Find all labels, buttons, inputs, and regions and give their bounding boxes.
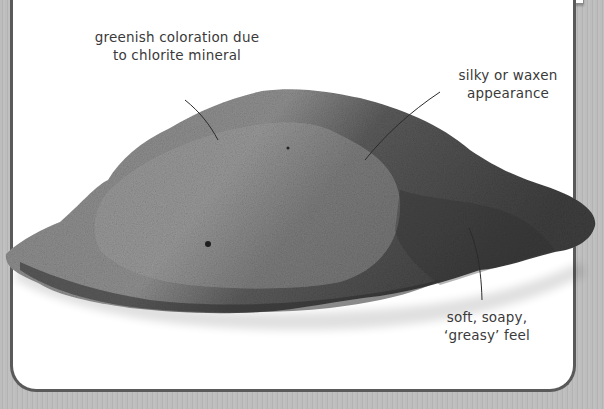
- annotation-line: silky or waxen: [448, 66, 568, 84]
- annotation-soapy-feel: soft, soapy, ‘greasy’ feel: [432, 308, 542, 344]
- annotation-line: appearance: [448, 84, 568, 102]
- annotation-silky-appearance: silky or waxen appearance: [448, 66, 568, 102]
- annotation-line: soft, soapy,: [432, 308, 542, 326]
- annotation-line: to chlorite mineral: [92, 46, 262, 64]
- annotation-line: greenish coloration due: [92, 28, 262, 46]
- annotation-greenish-coloration: greenish coloration due to chlorite mine…: [92, 28, 262, 64]
- annotation-line: ‘greasy’ feel: [432, 326, 542, 344]
- rock-illustration: [0, 0, 604, 409]
